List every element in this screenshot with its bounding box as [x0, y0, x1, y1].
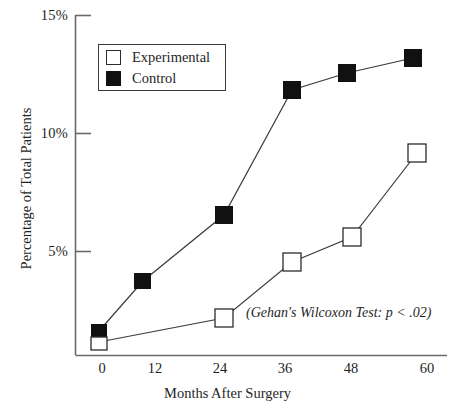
x-tick-label-24: 24 [200, 360, 240, 377]
series-line-control [99, 58, 413, 331]
marker-experimental-3 [343, 228, 361, 246]
chart-figure: 15% 10% 5% 0 12 24 36 48 60 Percentage o… [0, 0, 455, 419]
marker-experimental-4 [408, 144, 426, 162]
x-tick-label-0: 0 [82, 360, 122, 377]
marker-control-0 [91, 324, 107, 338]
marker-experimental-1 [215, 309, 233, 327]
marker-control-2 [215, 206, 233, 224]
chart-legend: Experimental Control [98, 44, 226, 91]
x-tick-label-60: 60 [407, 360, 447, 377]
statistical-test-annotation: (Gehan's Wilcoxon Test: p < .02) [246, 305, 431, 321]
plot-area [0, 0, 455, 419]
x-axis-title: Months After Surgery [0, 385, 455, 402]
y-axis-title: Percentage of Total Patients [18, 79, 35, 299]
legend-label-experimental: Experimental [132, 50, 210, 65]
legend-item-experimental: Experimental [106, 47, 210, 68]
legend-item-control: Control [106, 68, 176, 89]
x-tick-label-12: 12 [135, 360, 175, 377]
marker-experimental-0 [91, 337, 107, 350]
x-tick-label-48: 48 [331, 360, 371, 377]
marker-control-1 [134, 273, 151, 289]
marker-control-5 [404, 49, 422, 67]
marker-experimental-2 [283, 253, 301, 271]
legend-swatch-open-square-icon [106, 50, 121, 65]
marker-control-4 [338, 64, 356, 82]
y-tick-label-15: 15% [18, 7, 68, 24]
legend-swatch-filled-square-icon [106, 71, 121, 86]
x-tick-label-36: 36 [265, 360, 305, 377]
marker-control-3 [283, 81, 301, 99]
legend-label-control: Control [132, 71, 176, 86]
